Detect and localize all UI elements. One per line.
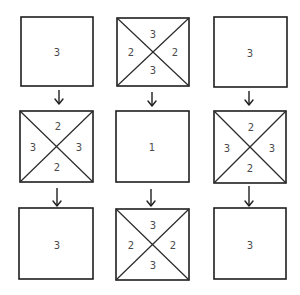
cell-r2c1: 3 2 2 3	[116, 209, 189, 280]
cell-label-bottom: 3	[150, 260, 156, 271]
cell-label-top: 3	[150, 29, 156, 40]
arrow-down-r0c2	[245, 91, 253, 105]
cell-label-right: 3	[269, 143, 275, 154]
arrow-down-r0c1	[148, 92, 156, 106]
cell-label-center: 1	[149, 142, 155, 153]
cell-r1c1: 1	[116, 111, 189, 182]
arrow-down-r1c0	[53, 188, 61, 206]
cell-label-right: 2	[170, 240, 176, 251]
cell-r2c0: 3	[19, 208, 93, 279]
cell-label-right: 2	[172, 47, 178, 58]
cell-label-center: 3	[247, 48, 253, 59]
cell-r1c2: 2 3 3 2	[214, 111, 286, 183]
cell-label-right: 3	[76, 142, 82, 153]
arrow-down-r0c0	[55, 90, 63, 104]
cell-label-center: 3	[247, 240, 253, 251]
cell-label-top: 3	[150, 220, 156, 231]
cell-label-left: 2	[128, 240, 134, 251]
cell-label-center: 3	[54, 240, 60, 251]
cell-r2c2: 3	[214, 208, 286, 279]
cell-label-bottom: 2	[54, 162, 60, 173]
cell-label-top: 2	[55, 121, 61, 132]
cell-label-left: 2	[128, 47, 134, 58]
cell-r0c1: 3 2 2 3	[117, 18, 189, 86]
arrow-down-r1c1	[147, 189, 155, 206]
cell-r0c2: 3	[214, 17, 287, 87]
cell-label-bottom: 2	[247, 163, 253, 174]
cell-label-left: 3	[224, 143, 230, 154]
cell-label-bottom: 3	[150, 65, 156, 76]
arrow-down-r1c2	[245, 186, 253, 206]
cell-label-top: 2	[248, 122, 254, 133]
cell-label-center: 3	[54, 47, 60, 58]
cell-label-left: 3	[30, 142, 36, 153]
cell-r0c0: 3	[21, 17, 93, 86]
grid-diagram: 3 3 2 2 3 3 2 3 3 2 1	[0, 0, 300, 295]
cell-r1c0: 2 3 3 2	[20, 111, 93, 182]
